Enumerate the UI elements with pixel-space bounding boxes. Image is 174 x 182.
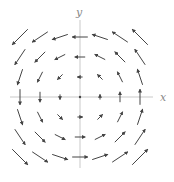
vector-arrow [112,32,128,42]
vector-arrow [52,34,68,39]
vector-arrow [92,154,108,159]
vector-arrow [35,52,45,62]
vector-arrow [55,54,65,59]
y-axis-label: y [75,6,83,19]
vector-arrow [115,52,125,62]
vector-arrow [52,154,68,159]
vector-arrow [97,114,102,119]
vector-arrow [57,114,62,119]
vector-arrow [132,29,148,45]
vector-arrow [15,49,25,65]
vector-arrow [12,149,28,165]
vector-arrow [79,96,81,98]
vector-arrow [95,134,105,139]
vector-arrow [97,74,102,79]
vector-arrow [137,69,142,85]
vector-arrow [15,129,25,145]
x-axis-label: x [160,91,167,104]
vector-arrow [57,74,62,79]
vector-arrow [55,134,65,139]
vector-arrow [17,109,22,125]
vector-arrow [32,152,48,162]
vector-arrow [92,34,108,39]
vector-field-plot: x y [0,0,174,182]
vector-arrow [37,72,42,82]
vector-arrow [95,54,105,59]
vector-arrow [12,29,28,45]
vector-arrow [135,49,145,65]
vector-arrow [132,149,148,165]
vector-arrow [17,69,22,85]
vector-arrow [135,129,145,145]
vector-arrow [115,132,125,142]
vector-arrow [112,152,128,162]
vector-arrow [117,72,122,82]
vector-arrow [32,32,48,42]
vector-arrow [137,109,142,125]
vector-arrow [35,132,45,142]
vector-arrow [37,112,42,122]
vector-arrow [117,112,122,122]
